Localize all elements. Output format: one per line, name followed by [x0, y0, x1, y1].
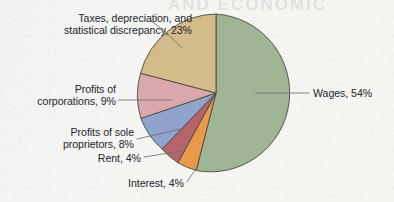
pie-label-rent: Rent, 4%	[80, 152, 141, 164]
pie-label-interest: Interest, 4%	[108, 177, 184, 189]
pie-chart-figure: AND ECONOMIC Taxes, depreciat	[0, 0, 394, 202]
pie-label-profits-corporations: Profits of corporations, 9%	[32, 83, 116, 108]
pie-label-taxes-depreciation-discrepancy: Taxes, depreciation, and statistical dis…	[12, 12, 192, 37]
pie-label-profits-sole-proprietors: Profits of sole proprietors, 8%	[38, 126, 134, 151]
pie-label-wages: Wages, 54%	[313, 87, 393, 99]
